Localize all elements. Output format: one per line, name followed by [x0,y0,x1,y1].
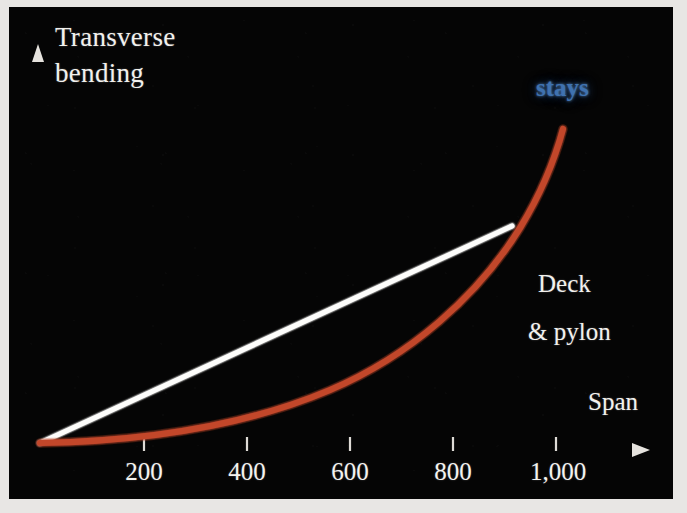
x-tick-label-200: 200 [125,458,163,486]
x-tick-label-400: 400 [228,458,266,486]
y-axis-label-line2: bending [55,58,144,89]
x-axis [14,443,650,457]
y-axis [32,44,44,450]
figure-container: Transverse bending stays Deck & pylon Sp… [0,0,687,513]
y-axis-arrowhead [32,44,44,62]
series-label-pylon: & pylon [528,318,611,346]
x-tick-label-800: 800 [434,458,472,486]
y-axis-label-line1: Transverse [55,22,176,53]
series-label-deck: Deck [538,270,591,298]
x-axis-arrowhead [632,443,650,457]
x-axis-label: Span [588,388,638,416]
series-label-stays: stays [536,74,589,102]
x-tick-label-1000: 1,000 [530,458,586,486]
series-stays [40,129,563,443]
x-tick-label-600: 600 [331,458,369,486]
